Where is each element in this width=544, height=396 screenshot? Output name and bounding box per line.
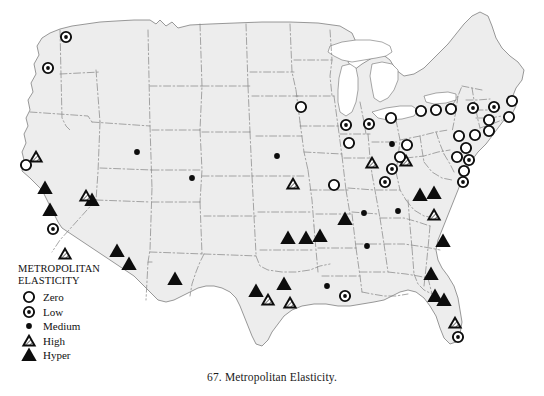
map-marker-zero — [402, 140, 412, 150]
map-marker-low — [453, 332, 463, 342]
map-marker-zero — [507, 96, 517, 106]
legend-title: METROPOLITAN ELASTICITY — [18, 263, 148, 286]
map-marker-medium — [364, 243, 370, 249]
map-marker-medium — [134, 149, 140, 155]
map-marker-zero — [431, 105, 441, 115]
map-marker-low — [340, 291, 350, 301]
figure-metropolitan-elasticity: METROPOLITAN ELASTICITY ZeroLowMediumHig… — [0, 0, 544, 396]
map-marker-zero — [452, 152, 462, 162]
map-marker-low — [364, 119, 374, 129]
legend-row-medium: Medium — [18, 319, 148, 334]
map-marker-zero — [386, 113, 396, 123]
dotted-circle-icon — [18, 305, 40, 319]
hatched-triangle-icon — [18, 334, 40, 348]
map-marker-medium — [324, 283, 330, 289]
map-marker-low — [468, 103, 478, 113]
map-marker-low — [43, 63, 53, 73]
map-marker-zero — [344, 138, 354, 148]
legend-row-low: Low — [18, 305, 148, 320]
legend: METROPOLITAN ELASTICITY ZeroLowMediumHig… — [18, 263, 148, 363]
map-marker-zero — [21, 160, 31, 170]
map-marker-zero — [454, 131, 464, 141]
map-marker-zero — [461, 143, 471, 153]
map-marker-low — [458, 177, 468, 187]
map-marker-low — [464, 155, 474, 165]
legend-label-high: High — [40, 335, 65, 347]
map-marker-medium — [389, 141, 395, 147]
map-marker-zero — [470, 130, 480, 140]
map-marker-low — [341, 120, 351, 130]
map-marker-high — [58, 247, 73, 260]
figure-caption: 67. Metropolitan Elasticity. — [0, 371, 544, 383]
map-marker-zero — [484, 115, 494, 125]
map-marker-low — [48, 224, 58, 234]
map-marker-zero — [459, 166, 469, 176]
map-marker-zero — [329, 180, 339, 190]
map-marker-low — [61, 32, 71, 42]
filled-dot-icon — [18, 319, 40, 333]
legend-items: ZeroLowMediumHighHyper — [18, 290, 148, 363]
map-marker-zero — [395, 152, 405, 162]
legend-row-zero: Zero — [18, 290, 148, 305]
map-marker-medium — [274, 153, 280, 159]
map-marker-low — [380, 177, 390, 187]
map-marker-low — [387, 164, 397, 174]
filled-triangle-icon — [18, 348, 40, 362]
map-marker-medium — [395, 208, 401, 214]
legend-label-medium: Medium — [40, 320, 80, 332]
map-marker-zero — [484, 126, 494, 136]
map-marker-medium — [189, 175, 195, 181]
legend-label-hyper: Hyper — [40, 349, 71, 361]
map-marker-zero — [296, 102, 306, 112]
map-marker-medium — [361, 210, 367, 216]
legend-row-hyper: Hyper — [18, 348, 148, 363]
map-marker-low — [489, 102, 499, 112]
map-marker-zero — [504, 112, 514, 122]
open-circle-icon — [18, 290, 40, 304]
legend-row-high: High — [18, 334, 148, 349]
legend-label-zero: Zero — [40, 291, 64, 303]
legend-label-low: Low — [40, 306, 63, 318]
map-marker-zero — [416, 106, 426, 116]
map-marker-zero — [446, 104, 456, 114]
